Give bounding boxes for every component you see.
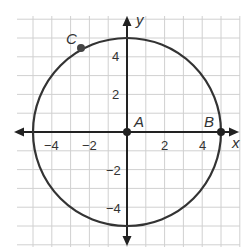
x-tick-4: 4 [199,138,206,153]
x-axis-label: x [231,134,240,151]
y-tick-2: 2 [112,87,119,102]
point-b-label: B [204,113,214,130]
point-a-label: A [133,113,144,130]
coordinate-plane: x y −4 −2 2 4 4 2 −2 −4 A B C [0,0,247,249]
point-a [123,128,131,136]
point-b [217,128,225,136]
x-tick-neg2: −2 [82,138,97,153]
x-tick-neg4: −4 [44,138,59,153]
y-axis-up-arrow-icon [123,16,132,26]
point-c-label: C [66,30,77,47]
y-tick-neg2: −2 [106,163,121,178]
y-tick-neg4: −4 [106,201,121,216]
x-axis-left-arrow-icon [14,128,24,137]
point-c [77,44,85,52]
y-tick-4: 4 [112,49,119,64]
x-tick-2: 2 [161,138,168,153]
